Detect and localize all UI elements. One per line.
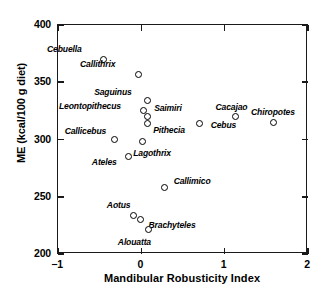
data-point-label: Alouatta xyxy=(118,238,151,247)
y-tick-mark xyxy=(302,196,308,198)
data-point-label: Callimico xyxy=(174,177,211,186)
x-tick-label: −1 xyxy=(45,258,69,270)
data-point-label: Pithecia xyxy=(153,126,185,135)
y-tick-mark xyxy=(302,81,308,83)
y-tick-mark xyxy=(58,253,64,255)
data-point-marker xyxy=(144,120,151,127)
scatter-plot-figure: ME (kcal/100 g diet) 200250300350400 −10… xyxy=(0,0,322,296)
data-point-marker xyxy=(196,120,203,127)
data-point-marker xyxy=(270,119,277,126)
x-tick-mark xyxy=(307,248,309,254)
y-axis-title: ME (kcal/100 g diet) xyxy=(15,38,27,188)
data-point-label: Cebus xyxy=(211,121,237,130)
y-tick-label: 300 xyxy=(21,133,51,145)
data-point-marker xyxy=(139,138,146,145)
data-point-marker xyxy=(232,113,239,120)
data-point-label: Chiropotes xyxy=(251,108,295,117)
data-point-marker xyxy=(144,97,151,104)
x-axis-title: Mandibular Robusticity Index xyxy=(57,272,307,284)
x-tick-mark xyxy=(141,25,143,31)
data-point-label: Saimiri xyxy=(154,104,182,113)
x-tick-mark xyxy=(224,25,226,31)
y-tick-label: 350 xyxy=(21,75,51,87)
data-point-label: Leontopithecus xyxy=(59,102,121,111)
data-point-label: Saguinus xyxy=(94,88,131,97)
x-tick-mark xyxy=(141,248,143,254)
x-tick-mark xyxy=(57,25,59,31)
y-tick-label: 400 xyxy=(21,18,51,30)
y-tick-mark xyxy=(302,139,308,141)
data-point-marker xyxy=(137,216,144,223)
data-point-marker xyxy=(111,136,118,143)
data-point-label: Callithrix xyxy=(80,60,115,69)
x-tick-mark xyxy=(57,248,59,254)
plot-frame: CebuellaCallithrixSaguinusLeontopithecus… xyxy=(57,24,307,253)
y-tick-mark xyxy=(58,24,64,26)
x-tick-mark xyxy=(307,25,309,31)
data-point-label: Lagothrix xyxy=(133,149,171,158)
x-tick-label: 2 xyxy=(295,258,319,270)
x-tick-label: 0 xyxy=(128,258,152,270)
y-tick-mark xyxy=(58,196,64,198)
data-point-label: Brachyteles xyxy=(149,221,196,230)
data-point-label: Aotus xyxy=(107,201,131,210)
data-point-marker xyxy=(161,184,168,191)
data-point-label: Callicebus xyxy=(65,127,107,136)
data-point-label: Cacajao xyxy=(216,103,248,112)
data-point-marker xyxy=(135,71,142,78)
y-tick-mark xyxy=(58,139,64,141)
x-tick-mark xyxy=(224,248,226,254)
y-tick-mark xyxy=(58,81,64,83)
data-point-label: Ateles xyxy=(92,158,117,167)
data-point-marker xyxy=(125,153,132,160)
y-tick-label: 250 xyxy=(21,190,51,202)
data-point-marker xyxy=(145,226,152,233)
data-point-label: Cebuella xyxy=(47,45,82,54)
x-tick-label: 1 xyxy=(212,258,236,270)
